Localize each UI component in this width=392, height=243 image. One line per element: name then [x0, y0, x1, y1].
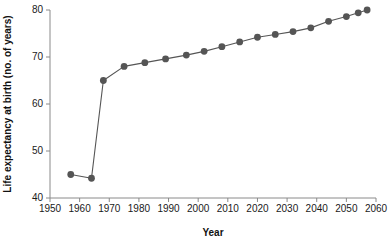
y-axis-title: Life expectancy at birth (no. of years): [2, 15, 13, 192]
x-axis-title: Year: [202, 227, 223, 238]
x-axis: 1950196019701980199020002010202020302040…: [39, 198, 388, 214]
x-tick-label: 1970: [98, 203, 121, 214]
data-point-marker: [254, 34, 261, 41]
y-tick-label: 50: [32, 145, 44, 156]
x-tick-label: 2020: [246, 203, 269, 214]
y-tick-label: 80: [32, 4, 44, 15]
data-point-marker: [325, 18, 332, 25]
y-tick-label: 40: [32, 192, 44, 203]
y-axis: 4050607080: [32, 4, 50, 203]
data-point-marker: [162, 55, 169, 62]
data-point-marker: [272, 31, 279, 38]
x-tick-label: 1980: [128, 203, 151, 214]
data-point-marker: [307, 24, 314, 31]
series-line: [71, 10, 367, 178]
data-point-marker: [100, 77, 107, 84]
data-point-marker: [290, 28, 297, 35]
x-tick-label: 2030: [276, 203, 299, 214]
data-point-marker: [201, 48, 208, 55]
y-tick-label: 60: [32, 98, 44, 109]
data-point-marker: [183, 52, 190, 59]
x-tick-label: 1960: [69, 203, 92, 214]
data-point-marker: [121, 63, 128, 70]
data-point-marker: [88, 175, 95, 182]
data-point-marker: [364, 7, 371, 14]
data-series: [67, 7, 370, 182]
x-tick-label: 2060: [365, 203, 388, 214]
data-point-marker: [141, 59, 148, 66]
x-tick-label: 1950: [39, 203, 62, 214]
chart-figure: 4050607080 19501960197019801990200020102…: [0, 0, 392, 243]
data-point-marker: [236, 39, 243, 46]
y-tick-label: 70: [32, 51, 44, 62]
x-tick-label: 1990: [157, 203, 180, 214]
x-tick-label: 2040: [306, 203, 329, 214]
data-point-marker: [355, 9, 362, 16]
data-point-marker: [343, 13, 350, 20]
line-chart: 4050607080 19501960197019801990200020102…: [0, 0, 392, 243]
x-tick-label: 2010: [217, 203, 240, 214]
data-point-marker: [67, 171, 74, 178]
data-point-marker: [218, 43, 225, 50]
x-tick-label: 2000: [187, 203, 210, 214]
x-tick-label: 2050: [335, 203, 358, 214]
